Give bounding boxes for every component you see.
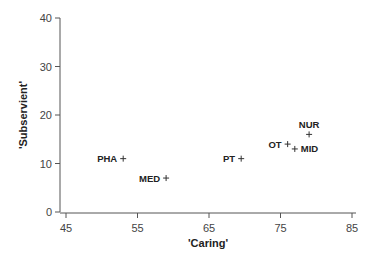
y-tick-label: 0 (46, 206, 52, 218)
x-tick-label: 55 (131, 222, 143, 234)
point-label: NUR (299, 119, 320, 130)
scatter-chart: 0102030404555657585 PHAMEDPTOTMIDNUR 'Ca… (0, 0, 377, 262)
point-label: MID (301, 143, 319, 154)
data-point-med: MED (139, 173, 169, 184)
data-point-pha: PHA (97, 153, 126, 164)
x-tick-label: 65 (203, 222, 215, 234)
point-label: OT (268, 139, 281, 150)
x-axis-title: 'Caring' (188, 237, 228, 249)
point-label: PT (223, 153, 235, 164)
point-label: MED (139, 173, 160, 184)
data-point-ot: OT (268, 139, 290, 150)
y-tick-label: 10 (40, 158, 52, 170)
x-tick-label: 45 (60, 222, 72, 234)
data-point-pt: PT (223, 153, 244, 164)
data-points: PHAMEDPTOTMIDNUR (97, 119, 319, 183)
point-label: PHA (97, 153, 117, 164)
data-point-nur: NUR (299, 119, 320, 137)
data-point-mid: MID (292, 143, 319, 154)
x-tick-label: 85 (346, 222, 358, 234)
y-tick-label: 20 (40, 109, 52, 121)
y-tick-label: 30 (40, 61, 52, 73)
y-axis-title: 'Subservient' (17, 81, 29, 150)
x-tick-label: 75 (274, 222, 286, 234)
y-tick-label: 40 (40, 12, 52, 24)
